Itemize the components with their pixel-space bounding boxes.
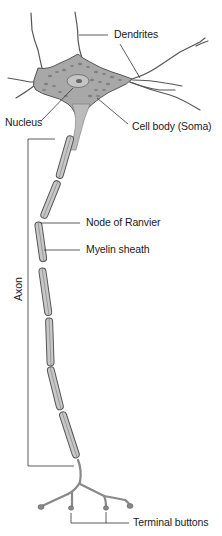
label-myelin-sheath: Myelin sheath <box>86 243 149 255</box>
label-cell-body: Cell body (Soma) <box>132 120 212 132</box>
axon-terminal <box>42 460 130 507</box>
label-dendrites: Dendrites <box>114 28 158 40</box>
axon <box>35 104 90 459</box>
neuron-illustration <box>0 0 222 536</box>
dendrites <box>8 12 208 110</box>
label-nucleus: Nucleus <box>5 116 42 128</box>
label-axon: Axon <box>12 277 24 301</box>
label-terminal-buttons: Terminal buttons <box>133 516 208 528</box>
label-node-of-ranvier: Node of Ranvier <box>86 216 160 228</box>
